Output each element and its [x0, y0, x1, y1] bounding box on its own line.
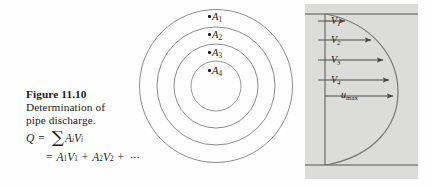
term-A1: A — [57, 150, 64, 165]
figure-number-label: Figure 11.10 — [26, 88, 146, 101]
area-label-a3: A3 — [208, 47, 222, 60]
term-V1-subscript: 1 — [74, 152, 78, 167]
summation-icon: ∑ — [52, 132, 64, 143]
equals-sign-2: = — [46, 150, 53, 165]
term-V: V — [74, 131, 81, 146]
term-V2-subscript: 2 — [110, 152, 114, 167]
area-point-dot-3 — [208, 51, 211, 54]
caption-line-1: Determination of — [26, 101, 146, 114]
plus-sign-2: + — [118, 150, 125, 165]
term-A2: A — [92, 150, 99, 165]
plus-sign-1: + — [82, 150, 89, 165]
velocity-label-umax: umax — [341, 89, 358, 102]
area-label-a2: A2 — [208, 29, 222, 42]
velocity-label-v2: V2 — [331, 34, 341, 46]
figure-11-10: Figure 11.10 Determination of pipe disch… — [0, 0, 433, 186]
equals-sign-1: = — [38, 131, 45, 146]
figure-caption: Figure 11.10 Determination of pipe disch… — [26, 88, 146, 128]
term-V2: V — [103, 150, 110, 165]
term-V-subscript: i — [81, 133, 83, 148]
area-point-dot-4 — [208, 69, 211, 72]
equation-lhs-Q: Q — [26, 131, 34, 146]
term-V1: V — [67, 150, 74, 165]
velocity-profile-drawing — [305, 4, 418, 179]
term-A: A — [65, 131, 72, 146]
velocity-label-v3: V3 — [331, 54, 341, 66]
velocity-label-v4: V4 — [331, 74, 341, 86]
area-label-a4: A4 — [208, 65, 222, 78]
area-label-a1: A1 — [208, 11, 222, 24]
ring-2 — [157, 27, 275, 145]
area-point-dot-1 — [208, 15, 211, 18]
velocity-profile-panel: V1 V2 V3 V4 umax — [305, 4, 418, 179]
caption-line-2: pipe discharge. — [26, 114, 146, 127]
area-point-dot-2 — [208, 33, 211, 36]
velocity-label-v1: V1 — [331, 15, 341, 27]
